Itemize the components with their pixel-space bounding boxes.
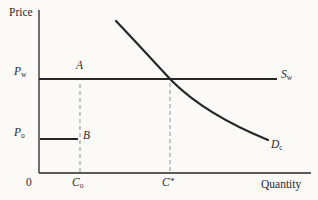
- cstar-sup: *: [170, 176, 175, 186]
- dc-curve-label: Dc: [271, 139, 283, 151]
- x-axis-title: Quantity: [261, 179, 301, 191]
- pw-sub: w: [21, 70, 26, 79]
- co-sub: o: [80, 181, 84, 190]
- plot-lines: [0, 0, 318, 200]
- po-base: P: [14, 126, 21, 138]
- point-a-label: A: [76, 60, 83, 72]
- point-b-label: B: [83, 130, 90, 142]
- cstar-base: C: [162, 176, 170, 188]
- pw-base: P: [14, 65, 21, 77]
- co-base: C: [72, 176, 80, 188]
- cstar-quantity-label: C*: [162, 177, 174, 189]
- dc-sub: c: [279, 143, 282, 152]
- figure-canvas: Price Quantity 0 Pw Po A B Co C* Sw Dc: [0, 0, 318, 200]
- po-sub: o: [21, 131, 25, 140]
- sw-sub: w: [287, 73, 292, 82]
- pw-price-label: Pw: [14, 66, 26, 78]
- po-price-label: Po: [14, 127, 25, 139]
- sw-curve-label: Sw: [281, 69, 292, 81]
- demand-curve: [116, 21, 268, 140]
- co-quantity-label: Co: [72, 177, 83, 189]
- origin-label: 0: [26, 177, 32, 189]
- y-axis-title: Price: [9, 7, 33, 19]
